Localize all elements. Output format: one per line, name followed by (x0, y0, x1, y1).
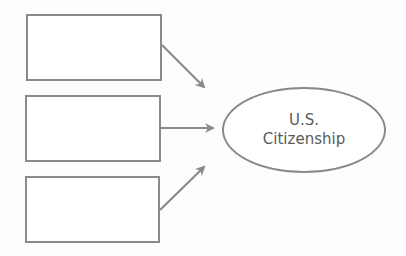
target-label-line1: U.S. (289, 111, 319, 130)
diagram-canvas: U.S. Citizenship (0, 0, 406, 256)
input-box-1[interactable] (26, 14, 162, 81)
target-ellipse: U.S. Citizenship (222, 87, 386, 173)
input-box-2[interactable] (25, 95, 161, 162)
target-label-line2: Citizenship (263, 130, 345, 149)
input-box-3[interactable] (25, 176, 160, 243)
arrow-1-icon (162, 45, 204, 87)
arrow-3-icon (160, 167, 204, 210)
